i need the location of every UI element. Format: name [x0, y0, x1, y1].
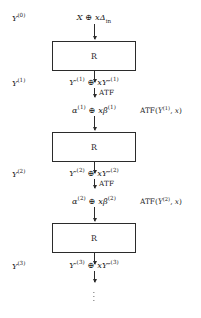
round-1-output-expression: Y′(1) ⊕ xY″(1) — [69, 78, 119, 86]
arrow-round-2-atf — [94, 179, 95, 188]
continuation-ellipsis — [93, 292, 94, 301]
state-label-y2: Y(2) — [12, 169, 25, 179]
arrow-to-round-3 — [94, 207, 95, 221]
round-2-atf-label: ATF — [99, 179, 114, 188]
arrow-to-continuation — [94, 271, 95, 282]
state-label-y1: Y(1) — [12, 78, 25, 88]
round-3-output-expression: Y′(3) ⊕ xY″(3) — [69, 261, 119, 269]
round-2-output-expression: Y′(2) ⊕ xY″(2) — [69, 169, 119, 177]
round-box-2: R — [52, 132, 136, 162]
round-box-3: R — [52, 223, 136, 253]
input-expression: X ⊕ xΔin — [77, 13, 112, 21]
round-2-side-note: ATF(Y(2), x) — [140, 197, 182, 206]
round-box-3-label: R — [53, 234, 135, 243]
round-1-alpha-beta-expression: α(1) ⊕ xβ(1) — [72, 106, 116, 114]
round-1-side-note: ATF(Y(1), x) — [140, 106, 182, 115]
round-1-atf-label: ATF — [99, 88, 114, 97]
flow-diagram: Y(0) X ⊕ xΔin R Y(1) Y′(1) ⊕ xY″(1) ATF … — [0, 0, 201, 318]
state-label-y0: Y(0) — [12, 13, 25, 23]
state-label-y3: Y(3) — [12, 261, 25, 271]
arrow-to-round-2 — [94, 116, 95, 130]
arrow-input-to-round-1 — [94, 24, 95, 39]
round-2-alpha-beta-expression: α(2) ⊕ xβ(2) — [72, 197, 116, 205]
arrow-round-1-atf — [94, 88, 95, 97]
round-box-2-label: R — [53, 143, 135, 152]
round-box-1: R — [52, 41, 136, 71]
round-box-1-label: R — [53, 52, 135, 61]
